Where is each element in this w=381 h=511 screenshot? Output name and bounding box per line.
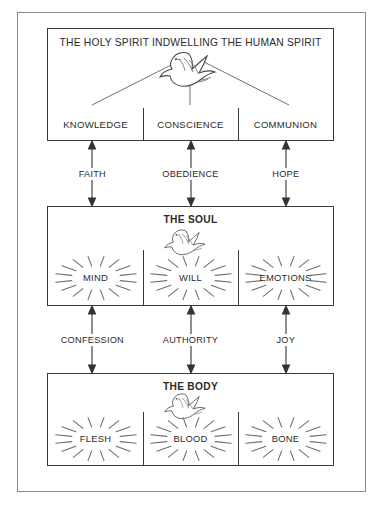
- cell-label: EMOTIONS: [259, 272, 311, 283]
- cell-conscience: CONSCIENCE: [143, 108, 238, 140]
- connector-label: HOPE: [269, 168, 302, 180]
- panel-spirit: THE HOLY SPIRIT INDWELLING THE HUMAN SPI…: [47, 28, 334, 141]
- cell-label: COMMUNION: [254, 119, 318, 130]
- cell-label: MIND: [83, 272, 108, 283]
- body-cell-row: FLESH BLOOD BONE: [48, 412, 333, 465]
- arrow-joy: JOY: [241, 306, 331, 373]
- connector-label: JOY: [273, 334, 298, 346]
- connector-label: OBEDIENCE: [159, 168, 221, 180]
- connector-label: AUTHORITY: [160, 334, 221, 346]
- cell-label: FLESH: [80, 433, 111, 444]
- cell-label: CONSCIENCE: [157, 119, 223, 130]
- cell-label: WILL: [179, 272, 202, 283]
- cell-flesh: FLESH: [48, 412, 143, 465]
- arrow-obedience: OBEDIENCE: [146, 141, 236, 206]
- cell-label: BONE: [272, 433, 300, 444]
- page-title: THE HOLY SPIRIT INDWELLING THE HUMAN SPI…: [48, 37, 333, 48]
- cell-knowledge: KNOWLEDGE: [48, 108, 143, 140]
- cell-emotions: EMOTIONS: [238, 250, 333, 305]
- cell-communion: COMMUNION: [238, 108, 333, 140]
- cell-label: KNOWLEDGE: [63, 119, 128, 130]
- cell-mind: MIND: [48, 250, 143, 305]
- connector-label: CONFESSION: [58, 334, 127, 346]
- arrow-authority: AUTHORITY: [146, 306, 236, 373]
- panel-body: THE BODY FLESH BLOOD BONE: [47, 373, 334, 466]
- cell-will: WILL: [143, 250, 238, 305]
- soul-cell-row: MIND WILL EMOTIONS: [48, 250, 333, 305]
- connector-soul-to-body: CONFESSION AUTHORITY JOY: [47, 306, 334, 373]
- connector-label: FAITH: [76, 168, 109, 180]
- panel-soul: THE SOUL MIND WILL EMOTIONS: [47, 206, 334, 306]
- cell-bone: BONE: [238, 412, 333, 465]
- connector-spirit-to-soul: FAITH OBEDIENCE HOPE: [47, 141, 334, 206]
- spirit-cell-row: KNOWLEDGE CONSCIENCE COMMUNION: [48, 108, 333, 140]
- panel-title-soul: THE SOUL: [48, 214, 333, 225]
- arrow-confession: CONFESSION: [47, 306, 137, 373]
- cell-blood: BLOOD: [143, 412, 238, 465]
- arrow-faith: FAITH: [47, 141, 137, 206]
- diagram-root: THE HOLY SPIRIT INDWELLING THE HUMAN SPI…: [0, 0, 381, 511]
- cell-label: BLOOD: [173, 433, 207, 444]
- panel-title-body: THE BODY: [48, 381, 333, 392]
- arrow-hope: HOPE: [241, 141, 331, 206]
